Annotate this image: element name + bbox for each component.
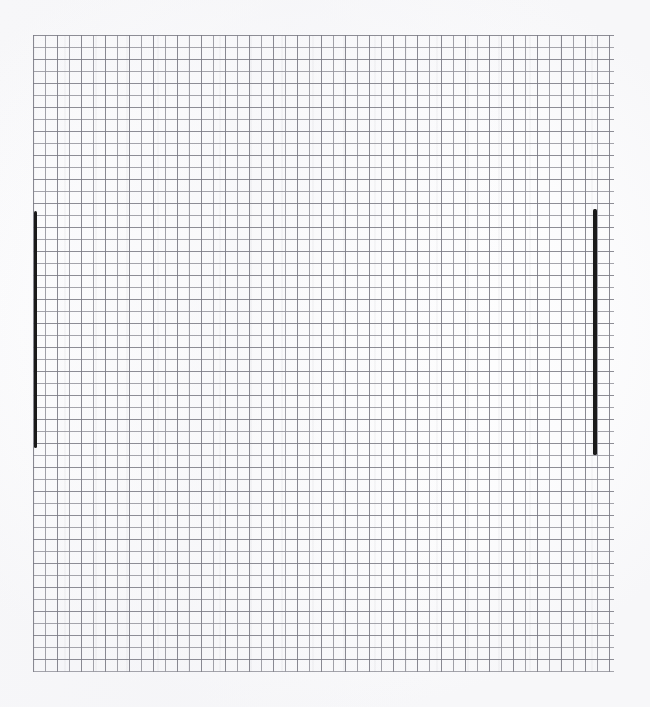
paper-texture xyxy=(0,0,650,707)
right-vertical-stroke xyxy=(593,209,597,455)
graph-paper-page xyxy=(0,0,650,707)
grid-accent-lines xyxy=(33,35,614,672)
graph-paper-grid xyxy=(33,35,614,672)
grid-fine-lines xyxy=(33,35,614,672)
scan-banding-overlay xyxy=(33,35,614,672)
left-vertical-stroke xyxy=(34,211,37,448)
